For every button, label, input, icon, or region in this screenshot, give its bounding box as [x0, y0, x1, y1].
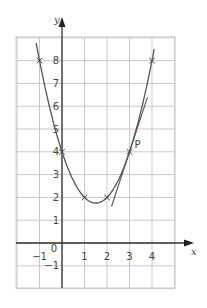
x-axis-label: x	[191, 246, 197, 257]
x-tick-label: 1	[81, 251, 87, 262]
x-tick-label: 2	[104, 251, 110, 262]
y-tick-label: 1	[53, 215, 59, 226]
y-tick-label: −1	[44, 260, 59, 271]
y-tick-label: 6	[53, 101, 59, 112]
y-tick-label: 7	[53, 78, 59, 89]
graph: xy−101234−112345678P	[0, 0, 207, 308]
x-tick-label: 4	[149, 251, 155, 262]
y-tick-label: 8	[53, 55, 59, 66]
x-tick-label: 3	[126, 251, 132, 262]
point-p-label: P	[135, 139, 141, 150]
tick-labels: −101234−112345678	[32, 55, 155, 271]
y-tick-label: 2	[53, 192, 59, 203]
y-tick-label: 4	[53, 146, 59, 157]
x-tick-label: 0	[51, 243, 57, 254]
y-tick-label: 3	[53, 169, 59, 180]
y-axis-label: y	[53, 14, 60, 25]
